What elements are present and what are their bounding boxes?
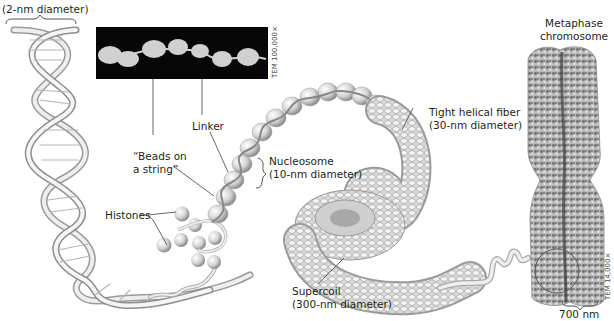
nucleosome-label-line2: (10-nm diameter) xyxy=(269,168,362,180)
supercoil-label-line1: Supercoil xyxy=(292,285,341,297)
tight-helical-fiber-label-line2: (30-nm diameter) xyxy=(429,119,522,131)
metaphase-chromosome-label-line2: chromosome xyxy=(534,30,614,42)
dna-diameter-label: (2-nm diameter) xyxy=(2,3,88,15)
nucleosome-label-line1: Nucleosome xyxy=(269,155,334,167)
metaphase-chromosome xyxy=(528,47,604,306)
electron-micrograph-beads xyxy=(96,27,268,79)
beads-on-string-label-line2: a string” xyxy=(133,163,178,175)
dna-diameter-bracket xyxy=(6,15,76,24)
nucleosome-bracket xyxy=(256,158,266,188)
supercoil xyxy=(295,110,528,298)
linker-label: Linker xyxy=(192,120,224,132)
histones-label: Histones xyxy=(105,209,150,221)
supercoil-label-line2: (300-nm diameter) xyxy=(292,298,392,310)
metaphase-chromosome-label-line1: Metaphase xyxy=(534,17,614,29)
tight-helical-fiber-label-line1: Tight helical fiber xyxy=(429,106,520,118)
tem-magnification-bottom: TEM 14,000× xyxy=(604,253,612,300)
scale-700nm-label: 700 nm xyxy=(559,308,599,320)
beads-on-string-label-line1: “Beads on xyxy=(133,150,187,162)
tem-magnification-top: TEM 100,000× xyxy=(271,26,279,78)
